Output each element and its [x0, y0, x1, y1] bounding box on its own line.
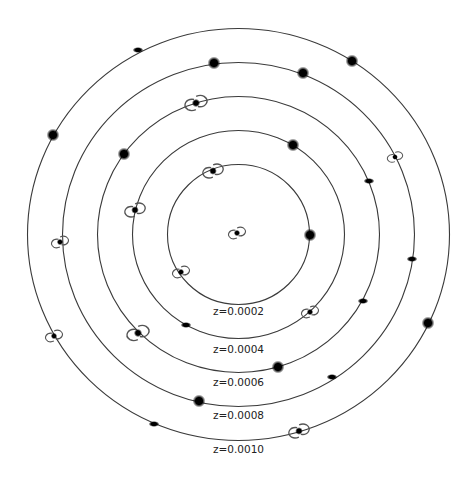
large-dot-galaxy-icon [422, 317, 435, 330]
large-dot-galaxy-icon [297, 67, 310, 80]
large-dot-galaxy-icon [208, 57, 221, 70]
large-dot-galaxy-icon [47, 129, 60, 142]
elliptical-galaxy-icon [327, 374, 338, 380]
spiral-galaxy-icon [288, 423, 311, 439]
elliptical-galaxy-icon [358, 298, 369, 304]
spiral-galaxy-icon [387, 151, 404, 163]
ring-label: z=0.0004 [213, 343, 264, 355]
elliptical-galaxy-icon [181, 322, 192, 328]
spiral-galaxy-icon [184, 94, 208, 111]
elliptical-galaxy-icon [133, 47, 144, 53]
spiral-galaxy-icon [301, 305, 320, 318]
spiral-galaxy-icon [172, 265, 191, 278]
large-dot-galaxy-icon [193, 395, 206, 408]
large-dot-galaxy-icon [118, 148, 131, 161]
elliptical-galaxy-icon [364, 178, 375, 184]
spiral-galaxy-icon [124, 202, 147, 218]
elliptical-galaxy-icon [149, 421, 160, 427]
spiral-galaxy-icon [202, 163, 225, 179]
large-dot-galaxy-icon [272, 361, 285, 374]
spiral-galaxy-icon [45, 329, 64, 342]
large-dot-galaxy-icon [346, 55, 359, 68]
redshift-rings-diagram: z=0.0002z=0.0004z=0.0006z=0.0008z=0.0010 [0, 0, 471, 477]
spiral-galaxy-icon [51, 235, 70, 248]
ring-label: z=0.0008 [213, 409, 264, 421]
ring-label: z=0.0006 [213, 376, 264, 388]
diagram-canvas: z=0.0002z=0.0004z=0.0006z=0.0008z=0.0010 [0, 0, 471, 477]
spiral-galaxy-icon [228, 226, 247, 239]
large-dot-galaxy-icon [287, 139, 300, 152]
ring-labels-layer: z=0.0002z=0.0004z=0.0006z=0.0008z=0.0010 [213, 305, 264, 455]
elliptical-galaxy-icon [407, 256, 418, 262]
ring-label: z=0.0010 [213, 443, 264, 455]
ring-label: z=0.0002 [213, 305, 264, 317]
large-dot-galaxy-icon [304, 229, 317, 242]
